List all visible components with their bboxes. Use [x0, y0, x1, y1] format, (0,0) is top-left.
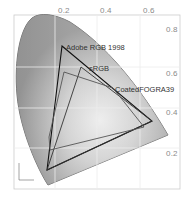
chromaticity-diagram: 0.2 0.4 0.6 0.8 0.6 0.4 0.2 Adobe RGB 19…	[0, 0, 192, 198]
y-tick-0.2: 0.2	[166, 149, 178, 158]
x-tick-0.2: 0.2	[58, 6, 70, 15]
locus-shading	[16, 15, 168, 185]
y-tick-0.6: 0.6	[166, 69, 178, 78]
y-tick-0.4: 0.4	[166, 108, 178, 117]
label-srgb: sRGB	[89, 64, 109, 73]
axis-indicator-icon	[19, 163, 34, 180]
diagram-canvas	[0, 0, 192, 198]
x-tick-0.4: 0.4	[100, 6, 112, 15]
label-coated-fogra39: CoatedFOGRA39	[115, 85, 174, 94]
label-adobe-rgb: Adobe RGB 1998	[66, 43, 125, 52]
x-tick-0.6: 0.6	[143, 6, 155, 15]
y-tick-0.8: 0.8	[166, 25, 178, 34]
